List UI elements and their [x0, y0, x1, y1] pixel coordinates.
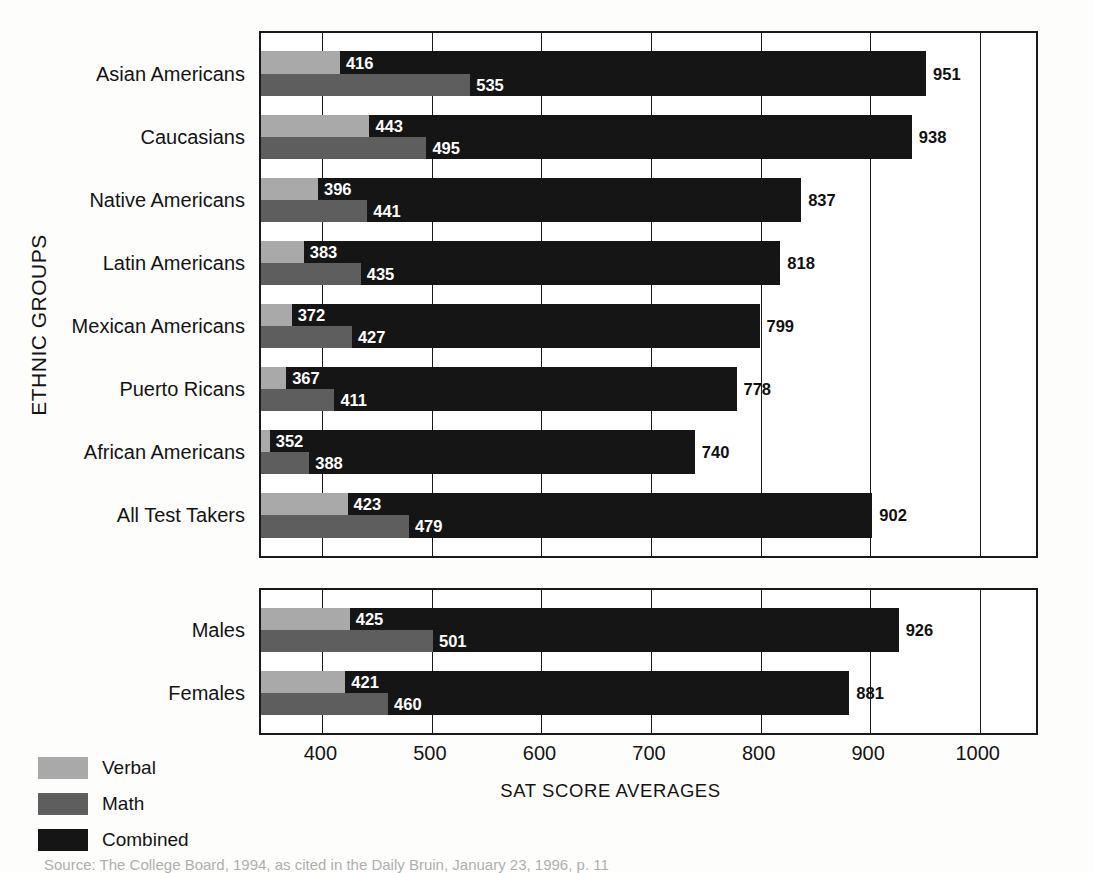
category-label: Caucasians [0, 127, 245, 147]
value-label-math: 388 [315, 455, 343, 472]
bar-group: 443495938 [261, 115, 1036, 159]
legend: VerbalMathCombined [38, 752, 189, 860]
legend-item-combined[interactable]: Combined [38, 824, 189, 855]
gridline-900 [870, 33, 871, 556]
bar-verbal [261, 367, 286, 389]
category-label: African Americans [0, 442, 245, 462]
bar-math [261, 515, 409, 537]
value-label-verbal: 383 [310, 244, 338, 261]
bar-math [261, 693, 388, 715]
bar-verbal [261, 115, 369, 137]
value-label-combined: 818 [787, 255, 815, 272]
bar-verbal [261, 608, 350, 630]
value-label-verbal: 425 [356, 611, 384, 628]
value-label-math: 495 [432, 139, 460, 156]
value-label-combined: 799 [767, 318, 795, 335]
value-label-combined: 938 [919, 128, 947, 145]
bar-verbal [261, 671, 345, 693]
value-label-math: 435 [367, 266, 395, 283]
value-label-combined: 926 [906, 622, 934, 639]
value-label-verbal: 443 [375, 117, 403, 134]
bar-group: 352388740 [261, 430, 1036, 474]
bar-math [261, 630, 433, 652]
bar-group: 423479902 [261, 493, 1036, 537]
bar-math [261, 263, 361, 285]
bar-group: 383435818 [261, 241, 1036, 285]
value-label-math: 460 [394, 695, 422, 712]
value-label-verbal: 396 [324, 181, 352, 198]
bar-verbal [261, 304, 292, 326]
category-label: Asian Americans [0, 64, 245, 84]
bar-group: 396441837 [261, 178, 1036, 222]
bar-verbal [261, 493, 348, 515]
value-label-math: 441 [373, 203, 401, 220]
x-tick-500: 500 [390, 743, 470, 763]
gridline-600 [541, 33, 542, 556]
category-label: Females [0, 683, 245, 703]
legend-item-math[interactable]: Math [38, 788, 189, 819]
bar-group: 416535951 [261, 51, 1036, 95]
x-tick-900: 900 [828, 743, 908, 763]
bar-group: 367411778 [261, 367, 1036, 411]
category-label: All Test Takers [0, 505, 245, 525]
category-label: Males [0, 620, 245, 640]
gridline-400 [322, 33, 323, 556]
x-tick-1000: 1000 [938, 743, 1018, 763]
category-label: Mexican Americans [0, 316, 245, 336]
bar-verbal [261, 51, 340, 73]
x-axis-title-text: SAT SCORE AVERAGES [500, 780, 721, 801]
x-tick-400: 400 [280, 743, 360, 763]
legend-item-verbal[interactable]: Verbal [38, 752, 189, 783]
bar-math [261, 74, 470, 96]
bar-group: 425501926 [261, 608, 1036, 652]
legend-label: Math [102, 794, 144, 813]
chart-panel-ethnic-groups: 4165359514434959383964418373834358183724… [259, 31, 1038, 558]
value-label-verbal: 352 [276, 433, 304, 450]
legend-swatch-verbal [38, 757, 88, 779]
value-label-verbal: 416 [346, 54, 374, 71]
bar-verbal [261, 430, 270, 452]
bar-verbal [261, 241, 304, 263]
value-label-combined: 881 [856, 685, 884, 702]
value-label-verbal: 423 [354, 496, 382, 513]
x-tick-700: 700 [609, 743, 689, 763]
gridline-700 [651, 33, 652, 556]
source-note: Source: The College Board, 1994, as cite… [44, 856, 609, 873]
bar-math [261, 389, 334, 411]
value-label-combined: 951 [933, 65, 961, 82]
gridline-500 [432, 33, 433, 556]
bar-group: 421460881 [261, 671, 1036, 715]
value-label-math: 479 [415, 518, 443, 535]
value-label-combined: 778 [744, 381, 772, 398]
legend-label: Combined [102, 830, 189, 849]
bar-group: 372427799 [261, 304, 1036, 348]
bar-math [261, 137, 426, 159]
value-label-combined: 902 [879, 507, 907, 524]
legend-swatch-combined [38, 829, 88, 851]
legend-swatch-math [38, 793, 88, 815]
value-label-combined: 837 [808, 192, 836, 209]
value-label-math: 427 [358, 329, 386, 346]
x-tick-800: 800 [719, 743, 799, 763]
value-label-math: 411 [340, 392, 367, 409]
gridline-800 [761, 33, 762, 556]
x-tick-600: 600 [499, 743, 579, 763]
category-label: Puerto Ricans [0, 379, 245, 399]
bar-math [261, 200, 367, 222]
category-label: Latin Americans [0, 253, 245, 273]
value-label-combined: 740 [702, 444, 730, 461]
bar-verbal [261, 178, 318, 200]
bar-math [261, 326, 352, 348]
value-label-math: 501 [439, 633, 467, 650]
bar-math [261, 452, 309, 474]
chart-panel-gender: 425501926421460881 [259, 588, 1038, 735]
value-label-verbal: 372 [298, 307, 326, 324]
value-label-verbal: 367 [292, 370, 320, 387]
legend-label: Verbal [102, 758, 156, 777]
category-label: Native Americans [0, 190, 245, 210]
gridline-1000 [980, 33, 981, 556]
value-label-math: 535 [476, 76, 504, 93]
value-label-verbal: 421 [351, 674, 379, 691]
